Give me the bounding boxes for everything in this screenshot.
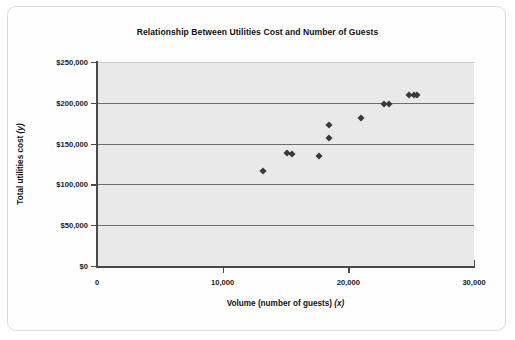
gridline — [97, 144, 474, 145]
gridline — [97, 62, 474, 63]
y-axis-tick-label: $100,000 — [56, 180, 88, 189]
y-axis-tick — [91, 225, 97, 226]
x-axis-tick-label: 10,000 — [211, 278, 234, 287]
x-axis-line — [96, 266, 475, 268]
x-axis-tick — [474, 260, 475, 267]
y-axis-tick-label: $250,000 — [56, 58, 88, 67]
gridline — [97, 184, 474, 185]
x-axis-title-text: Volume (number of guests) — [227, 299, 335, 308]
y-axis-tick — [91, 62, 97, 63]
gridline — [97, 103, 474, 104]
figure-card: Relationship Between Utilities Cost and … — [7, 6, 506, 331]
y-axis-tick — [91, 144, 97, 145]
y-axis-tick-label: $50,000 — [61, 221, 88, 230]
y-axis-tick-label: $150,000 — [56, 139, 88, 148]
chart-title: Relationship Between Utilities Cost and … — [8, 27, 507, 37]
y-axis-title-text: Total utilities cost — [16, 133, 25, 204]
x-axis-tick — [223, 266, 224, 273]
y-axis-tick-label: $0 — [80, 262, 88, 271]
x-axis-tick-label: 20,000 — [337, 278, 360, 287]
y-axis-tick — [91, 103, 97, 104]
y-axis-title-variable: (y) — [16, 123, 25, 133]
x-axis-title-variable: (x) — [334, 299, 344, 308]
y-axis-title: Total utilities cost (y) — [16, 62, 30, 266]
plot-area: $0$50,000$100,000$150,000$200,000$250,00… — [97, 62, 474, 266]
x-axis-tick-label: 0 — [95, 278, 99, 287]
x-axis-tick — [348, 266, 349, 273]
y-axis-tick — [91, 184, 97, 185]
y-axis-tick — [91, 266, 97, 267]
x-axis-tick-label: 30,000 — [462, 278, 485, 287]
y-axis-tick-label: $200,000 — [56, 98, 88, 107]
y-axis-line — [96, 61, 98, 267]
x-axis-title: Volume (number of guests) (x) — [97, 299, 474, 308]
gridline — [97, 225, 474, 226]
